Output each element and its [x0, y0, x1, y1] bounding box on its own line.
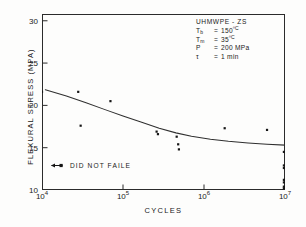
condition-value: 1 min	[221, 53, 239, 62]
x-tick-label: 105	[117, 192, 129, 201]
data-point-marker	[266, 129, 268, 131]
chart-screenshot: 1015202530 104105106107 FLEXURAL STRESS …	[0, 0, 306, 227]
data-point-marker	[283, 167, 285, 169]
data-point-marker	[42, 91, 43, 93]
x-tick-label: 104	[36, 192, 48, 201]
data-point-marker	[156, 131, 158, 133]
x-tick-label: 107	[279, 192, 291, 201]
condition-value: 200 MPa	[221, 44, 250, 53]
condition-equals: =	[211, 36, 221, 45]
data-point-marker	[224, 127, 226, 129]
data-point-marker	[109, 100, 111, 102]
conditions-annotation: UHMWPE - ZS Tb=150ºCTm=35ºCP=200 MPaτ=1 …	[196, 18, 250, 61]
conditions-title: UHMWPE - ZS	[196, 18, 250, 27]
x-tick-label: 106	[198, 192, 210, 201]
data-point-marker	[77, 91, 79, 93]
conditions-rows: Tb=150ºCTm=35ºCP=200 MPaτ=1 min	[196, 27, 250, 61]
condition-value: 35ºC	[221, 36, 235, 45]
data-point-marker	[283, 164, 285, 166]
data-point-marker	[283, 151, 285, 153]
data-point-marker	[283, 187, 285, 189]
condition-row: P=200 MPa	[196, 44, 250, 53]
condition-symbol: τ	[196, 53, 211, 62]
condition-equals: =	[211, 53, 221, 62]
condition-row: Tm=35ºC	[196, 36, 250, 45]
condition-symbol: P	[196, 44, 211, 53]
condition-row: Tb=150ºC	[196, 27, 250, 36]
condition-symbol: Tm	[196, 36, 211, 45]
runout-arrow-icon	[50, 162, 64, 169]
y-tick-label: 30	[0, 16, 38, 25]
data-point-marker	[80, 125, 82, 127]
condition-symbol: Tb	[196, 27, 211, 36]
data-point-marker	[283, 181, 285, 183]
data-point-marker	[283, 179, 285, 181]
data-point-markers	[42, 91, 285, 190]
x-axis-title: CYCLES	[42, 206, 285, 215]
condition-equals: =	[211, 44, 221, 53]
y-axis-title: FLEXURAL STRESS (MPA)	[26, 32, 35, 182]
legend-label: DID NOT FAILE	[70, 162, 131, 169]
y-tick-label: 10	[0, 186, 38, 195]
condition-equals: =	[211, 27, 221, 36]
data-point-marker	[178, 148, 180, 150]
data-point-marker	[157, 133, 159, 135]
data-point-marker	[177, 143, 179, 145]
fitted-curve	[45, 90, 285, 145]
data-point-marker	[176, 136, 178, 138]
condition-row: τ=1 min	[196, 53, 250, 62]
legend-did-not-fail: DID NOT FAILE	[50, 162, 131, 169]
